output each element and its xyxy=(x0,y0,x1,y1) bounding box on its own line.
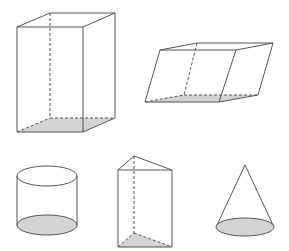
cone xyxy=(216,165,274,236)
triangular-prism xyxy=(118,156,172,247)
cylinder xyxy=(17,166,77,235)
oblique-parallelepiped xyxy=(145,43,273,102)
rectangular-prism-base xyxy=(17,118,115,132)
rectangular-prism xyxy=(17,13,115,132)
solid-shapes-diagram xyxy=(0,0,289,251)
